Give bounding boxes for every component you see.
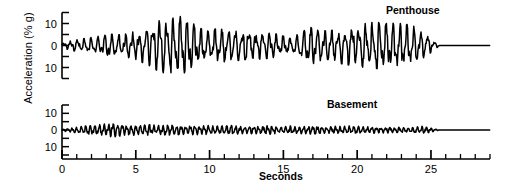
- y-axis-title: Acceleration (% g): [22, 0, 34, 128]
- panel-penthouse: 10010: [45, 13, 490, 79]
- y-tick-label: 10: [45, 18, 57, 30]
- x-axis-title: Seconds: [259, 170, 303, 182]
- basement-waveform: [62, 124, 490, 137]
- x-tick-label: 25: [425, 163, 437, 175]
- y-tick-label: 0: [51, 40, 57, 52]
- x-tick-label: 5: [133, 163, 139, 175]
- penthouse-trace-label: Penthouse: [386, 4, 440, 16]
- seismograph-figure: Acceleration (% g) Penthouse Basement Se…: [0, 0, 517, 193]
- panel-basement: 10010: [45, 105, 490, 155]
- y-tick-label: 10: [45, 107, 57, 119]
- y-tick-label: 10: [45, 62, 57, 74]
- x-tick-label: 10: [203, 163, 215, 175]
- plot-canvas: 10010 10010 0510152025: [0, 0, 517, 193]
- penthouse-waveform: [62, 17, 490, 73]
- y-tick-label: 10: [45, 141, 57, 153]
- basement-trace-label: Basement: [327, 98, 377, 110]
- x-tick-label: 20: [351, 163, 363, 175]
- y-tick-label: 0: [51, 124, 57, 136]
- x-tick-label: 0: [59, 163, 65, 175]
